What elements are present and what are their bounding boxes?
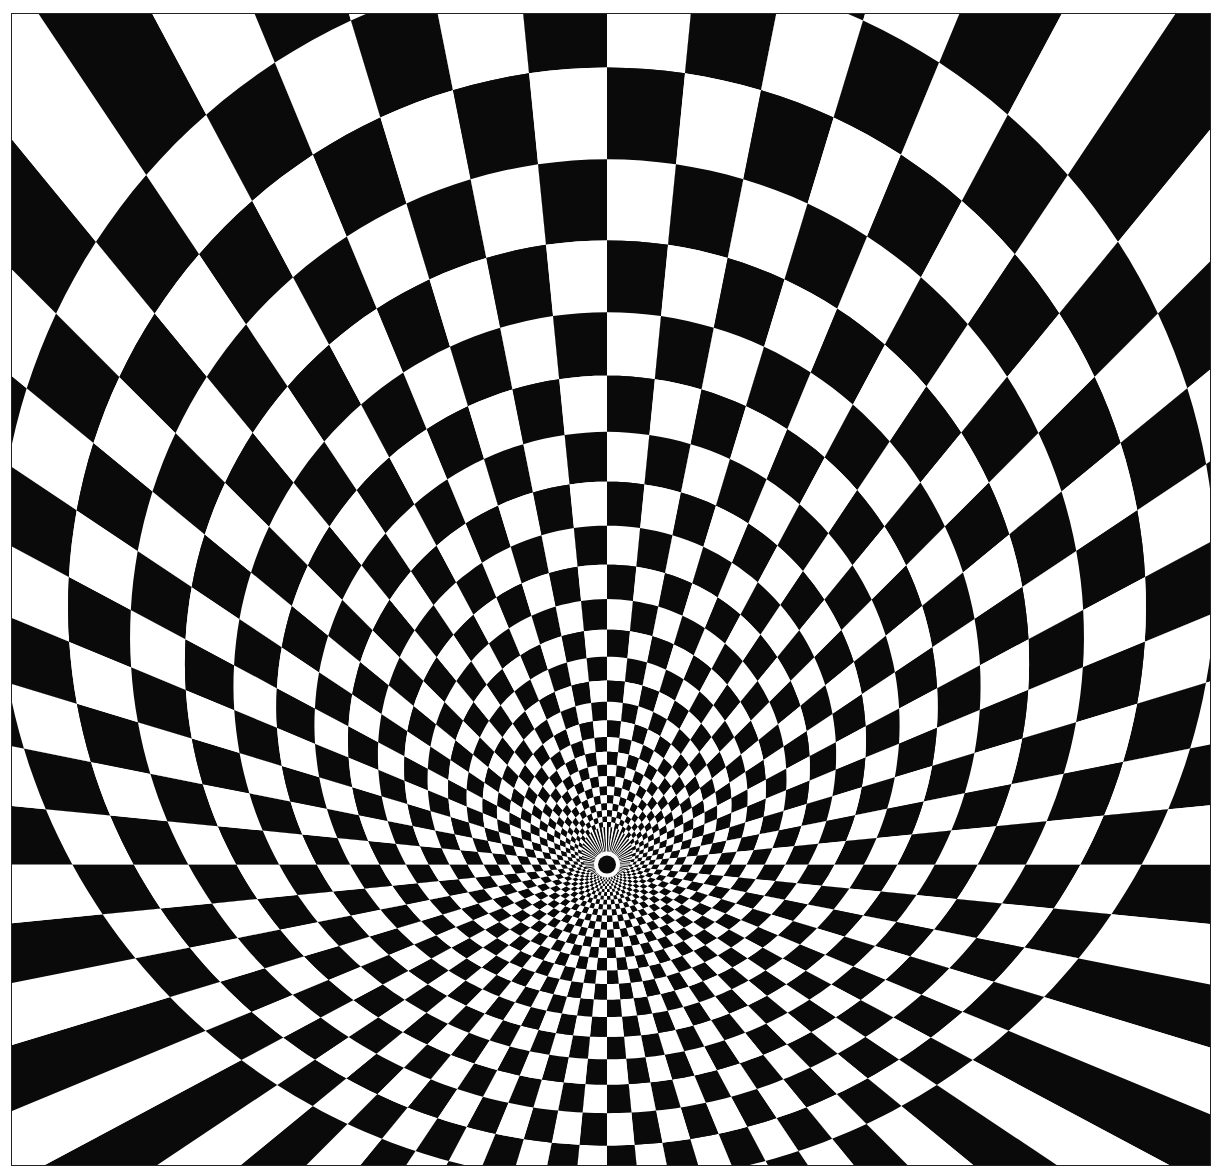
checker-cell	[590, 1017, 607, 1037]
checker-cell	[607, 657, 627, 682]
checker-cell	[607, 68, 685, 165]
checker-cell	[597, 765, 607, 777]
checker-cell	[607, 432, 649, 485]
checker-cell	[603, 904, 607, 909]
checker-cell	[546, 240, 607, 316]
checker-cell	[601, 803, 607, 810]
checker-cell	[607, 482, 644, 528]
checker-cell	[605, 884, 607, 886]
checker-cell	[607, 984, 620, 1000]
checker-cell	[587, 657, 607, 682]
checker-cell	[607, 938, 615, 948]
checker-cell	[595, 737, 607, 752]
checker-cell	[606, 878, 607, 880]
checker-cell	[607, 1084, 631, 1113]
checker-cell	[607, 889, 610, 892]
checker-cell	[584, 630, 607, 659]
checker-cell	[602, 810, 607, 817]
checker-cell	[609, 879, 611, 881]
checker-cell	[607, 817, 612, 823]
checker-cell	[607, 159, 676, 245]
checker-cell	[583, 1084, 607, 1113]
checker-cell	[607, 904, 611, 909]
checker-cell	[607, 1036, 626, 1059]
checker-cell	[588, 1036, 607, 1059]
checker-cell	[607, 929, 614, 938]
checker-cell	[607, 909, 612, 915]
checker-cell	[607, 376, 655, 435]
checker-cell	[607, 752, 618, 766]
checker-cell	[607, 737, 619, 752]
checker-cell	[600, 929, 607, 938]
checker-cell	[607, 599, 633, 631]
checker-cell	[607, 1059, 629, 1085]
checker-cell	[607, 999, 622, 1017]
checker-cell	[607, 1112, 635, 1145]
checker-cell	[604, 889, 607, 892]
checker-cell	[598, 947, 607, 958]
checker-cell	[607, 810, 612, 817]
checker-cell	[574, 526, 607, 567]
checker-cell	[605, 886, 607, 889]
checker-cell	[607, 702, 623, 722]
checker-cell	[607, 892, 610, 896]
checker-cell	[607, 312, 661, 379]
checker-cell	[605, 879, 607, 881]
checker-cell	[607, 915, 613, 922]
checker-cell	[538, 159, 607, 245]
checker-cell	[598, 776, 607, 787]
checker-cell	[596, 752, 607, 766]
checker-cell	[607, 1145, 638, 1165]
checker-cell	[607, 879, 609, 881]
checker-cell	[607, 526, 640, 567]
checker-cell	[607, 886, 609, 889]
checker-cell	[607, 1017, 624, 1037]
center-dot	[598, 856, 616, 874]
checker-cell	[593, 720, 607, 737]
checker-cell	[589, 681, 607, 703]
checker-cell	[599, 938, 607, 948]
checker-cell	[607, 681, 625, 703]
checker-cell	[601, 915, 607, 922]
checker-cell	[579, 1112, 607, 1145]
checker-cell	[578, 565, 607, 601]
checker-cell	[603, 822, 607, 827]
checker-cell	[607, 795, 614, 803]
checker-cell	[604, 896, 607, 900]
checker-cell	[604, 892, 607, 896]
checker-cell	[607, 765, 617, 777]
checker-cell	[607, 958, 617, 970]
checker-cell	[607, 776, 616, 787]
checker-cell	[607, 803, 613, 810]
checker-cell	[607, 630, 630, 659]
checker-cell	[607, 240, 668, 316]
checker-cell	[607, 922, 613, 930]
checker-cell	[585, 1059, 607, 1085]
checker-cell	[607, 881, 609, 883]
checker-cell	[553, 312, 607, 379]
checker-cell	[599, 786, 607, 795]
checker-cell	[519, 14, 607, 73]
checker-cell	[576, 1145, 607, 1165]
checker-cell	[607, 970, 619, 984]
checker-cell	[581, 599, 607, 631]
checker-cell	[591, 702, 607, 722]
checker-cell	[607, 565, 636, 601]
checker-cell	[592, 999, 607, 1017]
checker-cell	[602, 909, 607, 915]
checker-cell	[594, 984, 607, 1000]
checker-cell	[559, 376, 607, 435]
checker-cell	[603, 900, 607, 905]
checker-cell	[604, 879, 606, 881]
checker-cell	[565, 432, 607, 485]
checker-cell	[607, 786, 615, 795]
checker-cell	[607, 896, 610, 900]
checker-cell	[605, 881, 607, 883]
checker-cell	[607, 14, 695, 73]
checker-cell	[529, 68, 607, 165]
checker-cell	[607, 720, 621, 737]
checker-cell	[600, 795, 607, 803]
checker-cell	[607, 947, 616, 958]
artwork-frame	[11, 13, 1211, 1166]
checker-cell	[607, 878, 608, 880]
